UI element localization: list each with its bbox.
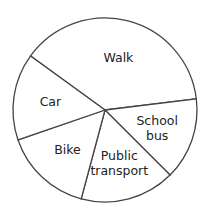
- slice-label-walk: Walk: [103, 50, 134, 65]
- slice-label-car: Car: [40, 94, 62, 109]
- slice-label-bike: Bike: [54, 142, 81, 157]
- pie-chart: WalkSchoolbusPublictransportBikeCar: [0, 0, 204, 215]
